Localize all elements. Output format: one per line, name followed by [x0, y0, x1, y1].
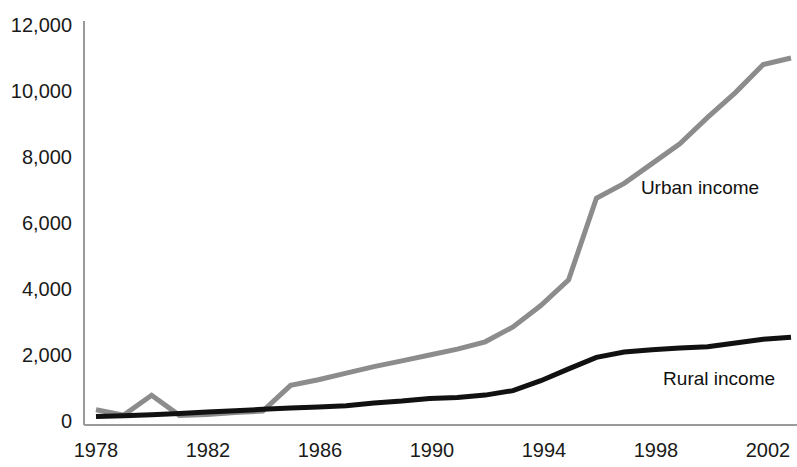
series-label-urban-income: Urban income [641, 178, 759, 197]
line-chart: 12,000 10,000 8,000 6,000 4,000 2,000 0 … [0, 0, 797, 467]
series-label-rural-income: Rural income [663, 369, 775, 388]
series-line-urban-income [96, 58, 791, 415]
plot-area [0, 0, 797, 467]
